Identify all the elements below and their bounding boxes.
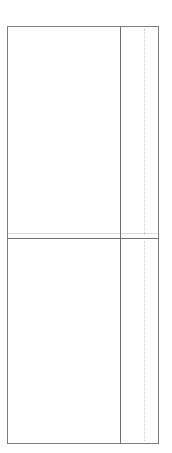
- frame-inner-area: [8, 27, 158, 443]
- lower-side-panel[interactable]: [121, 239, 158, 443]
- vertical-divider[interactable]: [120, 27, 121, 443]
- wireframe-canvas: [0, 0, 172, 453]
- outer-frame: [7, 26, 159, 444]
- vertical-dotted-guide-lower: [144, 241, 145, 441]
- lower-main-panel-label: [8, 239, 9, 240]
- lower-side-panel-label: [121, 239, 122, 240]
- upper-main-panel[interactable]: [8, 27, 120, 238]
- lower-main-panel[interactable]: [8, 239, 120, 443]
- upper-side-panel[interactable]: [121, 27, 158, 238]
- horizontal-hairline-divider: [8, 233, 158, 234]
- horizontal-divider[interactable]: [8, 238, 158, 239]
- upper-side-panel-label: [121, 27, 122, 28]
- upper-main-panel-label: [8, 27, 9, 28]
- vertical-dotted-guide-upper: [144, 29, 145, 235]
